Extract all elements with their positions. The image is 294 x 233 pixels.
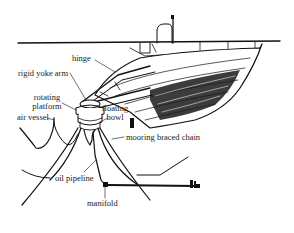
subsea-pipeline: [108, 185, 196, 186]
label-floating-bowl: floating bowl: [99, 104, 131, 122]
label-mooring-braced-chain: mooring braced chain: [126, 133, 200, 142]
mooring-diagram: hinge rigid yoke arm rotating platform f…: [0, 0, 294, 233]
left-lower-chain: [22, 170, 50, 178]
label-floating-bowl-line2: bowl: [99, 113, 131, 122]
mooring-chain-leader: [112, 137, 124, 139]
rigid-yoke-arm-leader: [70, 73, 86, 100]
upper-right-chain: [137, 157, 188, 175]
label-oil-pipeline: oil pipeline: [55, 174, 93, 183]
label-air-vessel: air vessel: [17, 113, 49, 122]
oil-pipeline: [93, 132, 105, 185]
oil-pipeline-leader: [84, 160, 96, 172]
label-rigid-yoke-arm: rigid yoke arm: [18, 69, 68, 78]
hinge-leader: [95, 60, 115, 72]
label-rotating-platform: rotating platform: [28, 93, 66, 111]
label-rotating-platform-line2: platform: [28, 102, 66, 111]
pipeline-end-terminal: [190, 180, 200, 188]
water-surface-line: [18, 41, 280, 43]
label-manifold: manifold: [87, 199, 118, 208]
label-hinge: hinge: [72, 54, 91, 63]
air-vessel-chain: [20, 122, 54, 148]
manifold-block: [103, 182, 108, 187]
